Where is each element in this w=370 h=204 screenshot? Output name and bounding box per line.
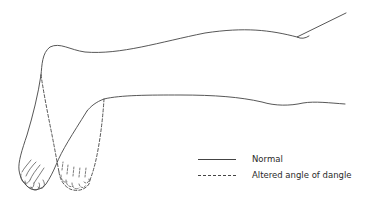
legend: Normal Altered angle of dangle (198, 152, 352, 184)
leg-lower-outline (87, 95, 345, 111)
legend-label-normal: Normal (252, 154, 283, 164)
legend-item-altered: Altered angle of dangle (198, 168, 352, 182)
diagram-canvas: Normal Altered angle of dangle (0, 0, 370, 204)
altered-foot-toes (61, 162, 89, 189)
altered-foot-outline (41, 75, 104, 190)
leg-upper-outline (41, 13, 346, 75)
legend-label-altered: Altered angle of dangle (252, 170, 352, 180)
normal-foot-toes (21, 160, 45, 190)
solid-line-swatch (198, 159, 236, 160)
normal-foot-outline (19, 75, 87, 190)
dashed-line-swatch (198, 175, 236, 176)
legend-item-normal: Normal (198, 152, 352, 166)
